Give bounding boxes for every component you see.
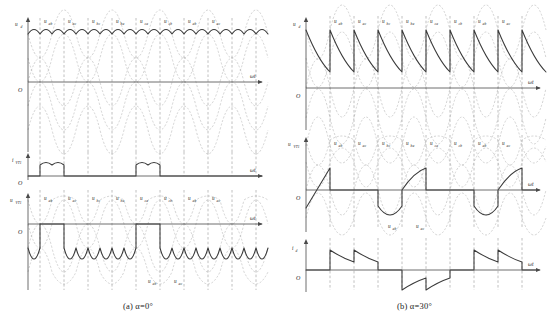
svg-text:ab: ab [193, 199, 197, 203]
segment-labels-uvt1-a: uab uac ubc uba uca ucb uab uac [44, 195, 220, 203]
subplot-id-b: i d O ωt [292, 238, 540, 292]
origin-id-b: O [296, 275, 301, 281]
svg-text:u: u [212, 18, 215, 24]
segment-labels-ud-a: uab uac ubc uba uca ucb uab uac [44, 18, 220, 26]
svg-text:u: u [140, 18, 143, 24]
svg-text:ca: ca [145, 22, 149, 26]
waveform-figure: u d O ωt uab uac ubc uba uca ucb uab uac [0, 0, 553, 327]
svg-text:ca: ca [435, 144, 439, 148]
svg-text:u: u [44, 195, 47, 201]
commutation-gridlines-ivt1-a [40, 152, 256, 176]
svg-text:u: u [430, 140, 433, 146]
y-label-uvt1-b: u [288, 141, 291, 147]
svg-text:cb: cb [459, 22, 463, 26]
svg-text:u: u [334, 18, 337, 24]
svg-text:cb: cb [169, 22, 173, 26]
origin-ivt1-a: O [18, 180, 23, 186]
svg-text:u: u [416, 223, 419, 229]
y-axis-arrow-uvt1-a [26, 193, 30, 198]
y-axis-arrow-ud-b [304, 17, 308, 22]
svg-text:ac: ac [507, 144, 511, 148]
origin-ud-b: O [296, 93, 301, 99]
y-label-ivt1-a: i [12, 157, 14, 163]
svg-text:u: u [388, 223, 391, 229]
y-axis-arrow-ivt1-a [26, 153, 30, 158]
ud-trace-a [28, 30, 268, 35]
svg-text:ac: ac [217, 199, 221, 203]
svg-text:ac: ac [421, 227, 425, 231]
svg-text:u: u [358, 18, 361, 24]
caption-panel-a: (a) α=0° [0, 301, 276, 311]
x-axis-label-uvt1-a: ωt [250, 215, 256, 221]
svg-text:ba: ba [411, 22, 415, 26]
svg-text:u: u [502, 18, 505, 24]
svg-text:u: u [478, 140, 481, 146]
y-axis-arrow-id-b [304, 239, 308, 244]
ud-trace-b [306, 30, 546, 72]
x-axis-label-id-b: ωt [528, 261, 534, 267]
segment-labels-ud-b: uab uac ubc uba uca ucb uab uac [334, 18, 510, 26]
dip-labels-uvt1-b: uab uac [388, 223, 424, 231]
svg-text:u: u [406, 140, 409, 146]
svg-text:ab: ab [153, 282, 157, 286]
svg-text:u: u [454, 18, 457, 24]
svg-text:u: u [164, 195, 167, 201]
subplot-uvt1-a: u VT1 O ωt uab uac ubc uba uca ucb uab u… [10, 190, 268, 290]
svg-text:ab: ab [339, 22, 343, 26]
svg-text:ac: ac [73, 199, 77, 203]
y-label-ud-b: u [293, 21, 296, 27]
svg-text:u: u [44, 18, 47, 24]
svg-text:u: u [116, 18, 119, 24]
svg-text:ac: ac [507, 22, 511, 26]
svg-text:bc: bc [387, 144, 391, 148]
panel-alpha-30: u d O ωt uab uac ubc uba uca ucb uab uac [276, 0, 553, 327]
svg-text:ab: ab [483, 22, 487, 26]
svg-text:ab: ab [49, 22, 53, 26]
panel-alpha-0: u d O ωt uab uac ubc uba uca ucb uab uac [0, 0, 276, 327]
y-label-ud-b-sub: d [299, 25, 301, 29]
svg-text:ab: ab [193, 22, 197, 26]
segment-labels-uvt1-b: uab uac ubc uba uca ucb uab uac [334, 140, 510, 148]
subplot-uvt1-b: u VT1 O ωt uab uac ubc uba uca ucb uab u… [288, 135, 546, 235]
y-label-id-b: i [292, 245, 294, 251]
svg-text:ab: ab [49, 199, 53, 203]
svg-text:u: u [92, 195, 95, 201]
svg-text:ab: ab [339, 144, 343, 148]
svg-text:u: u [358, 140, 361, 146]
subplot-ud-a: u d O ωt uab uac ubc uba uca ucb uab uac [15, 10, 268, 154]
svg-text:u: u [174, 278, 177, 284]
x-axis-label-ud-a: ωt [250, 73, 256, 79]
dip-labels-uvt1-a: uab uac [148, 278, 182, 286]
svg-text:bc: bc [97, 199, 101, 203]
svg-text:u: u [68, 195, 71, 201]
y-label-uvt1-a-sub: VT1 [16, 201, 22, 205]
panel-b-plot: u d O ωt uab uac ubc uba uca ucb uab uac [276, 0, 553, 300]
svg-text:u: u [164, 18, 167, 24]
svg-text:ac: ac [179, 282, 183, 286]
origin-uvt1-a: O [18, 229, 23, 235]
y-label-uvt1-b-sub: VT1 [294, 145, 300, 149]
svg-text:u: u [430, 18, 433, 24]
svg-text:ac: ac [363, 144, 367, 148]
svg-text:u: u [478, 18, 481, 24]
svg-text:u: u [140, 195, 143, 201]
svg-text:u: u [382, 18, 385, 24]
svg-text:u: u [92, 18, 95, 24]
svg-text:u: u [454, 140, 457, 146]
origin-uvt1-b: O [296, 195, 301, 201]
caption-panel-b: (b) α=30° [276, 301, 553, 311]
svg-text:ac: ac [73, 22, 77, 26]
uvt1-trace-b [306, 168, 538, 215]
svg-text:ba: ba [121, 199, 125, 203]
svg-text:ac: ac [217, 22, 221, 26]
svg-text:u: u [116, 195, 119, 201]
x-axis-label-uvt1-b: ωt [528, 181, 534, 187]
y-label-id-b-sub: d [296, 249, 298, 253]
commutation-gridlines-uvt1-a [40, 190, 256, 290]
y-axis-arrow-ud-a [26, 17, 30, 22]
svg-text:ab: ab [393, 227, 397, 231]
svg-text:cb: cb [169, 199, 173, 203]
svg-text:bc: bc [97, 22, 101, 26]
svg-text:u: u [406, 18, 409, 24]
svg-text:u: u [334, 140, 337, 146]
